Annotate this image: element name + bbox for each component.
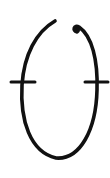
stroke-end-dot [74,27,80,33]
glyph-canvas [0,0,110,178]
handwritten-glyph-icon [0,0,110,178]
oval-stroke [22,21,97,158]
